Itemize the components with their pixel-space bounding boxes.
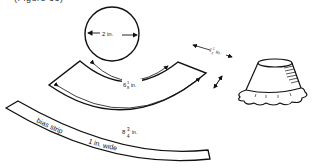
svg-text:in.: in. [132,129,137,135]
skirt-arc-piece [49,45,232,110]
svg-text:2: 2 [211,51,214,55]
circle-top-piece: 2 in. [85,7,139,61]
outer-arc-label: 8 3 4 in. [119,125,143,139]
pattern-diagram: 2 in. 6 1 8 in. 8 3 4 in. 1 1 2 in. [0,0,317,168]
finished-item-illustration [239,59,307,105]
svg-text:in.: in. [131,82,136,88]
svg-text:in.: in. [215,49,222,56]
circle-diameter-label: 2 in. [102,31,114,37]
depth-label: 1 1 2 in. [208,45,222,57]
inner-arc-label: 6 1 8 in. [122,79,142,90]
bias-strip-piece: bias strip 1 in. wide [6,101,210,161]
svg-text:1: 1 [212,46,215,50]
